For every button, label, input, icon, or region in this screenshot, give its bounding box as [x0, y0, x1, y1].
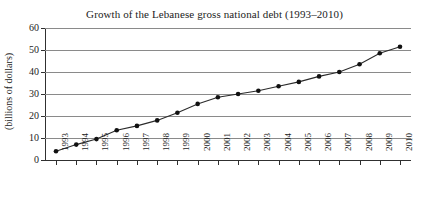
x-tick-mark: [157, 161, 158, 165]
x-tick-mark: [117, 161, 118, 165]
data-point: [276, 84, 281, 89]
data-point: [256, 88, 261, 93]
data-point: [135, 124, 140, 129]
x-tick-label: 2008: [364, 133, 374, 167]
x-tick-mark: [96, 161, 97, 165]
x-tick-label: 1993: [60, 133, 70, 167]
x-tick-label: 2007: [343, 133, 353, 167]
x-tick-mark: [258, 161, 259, 165]
y-axis-title-container: (billions of dollars): [0, 26, 16, 162]
x-tick-mark: [279, 161, 280, 165]
chart-title: Growth of the Lebanese gross national de…: [0, 8, 429, 20]
x-tick-label: 1995: [100, 133, 110, 167]
data-point: [74, 142, 79, 147]
x-tick-label: 2009: [384, 133, 394, 167]
x-tick-mark: [177, 161, 178, 165]
y-tick-label: 50: [15, 44, 39, 55]
x-tick-label: 1999: [181, 133, 191, 167]
x-tick-mark: [218, 161, 219, 165]
data-point: [297, 80, 302, 85]
x-tick-mark: [56, 161, 57, 165]
x-tick-mark: [238, 161, 239, 165]
x-tick-label: 2004: [283, 133, 293, 167]
x-tick-label: 2005: [303, 133, 313, 167]
x-tick-mark: [400, 161, 401, 165]
data-point: [175, 110, 180, 115]
y-tick-label: 30: [15, 88, 39, 99]
x-tick-label: 2001: [222, 133, 232, 167]
x-tick-label: 1994: [80, 133, 90, 167]
x-tick-mark: [198, 161, 199, 165]
y-axis-title: (billions of dollars): [3, 24, 14, 160]
x-tick-label: 1998: [161, 133, 171, 167]
data-point: [317, 74, 322, 79]
data-point: [114, 128, 119, 133]
x-tick-label: 1996: [121, 133, 131, 167]
x-tick-label: 1997: [141, 133, 151, 167]
y-tick-label: 40: [15, 66, 39, 77]
x-tick-mark: [360, 161, 361, 165]
data-point: [195, 102, 200, 107]
data-point: [155, 118, 160, 123]
data-point: [216, 95, 221, 100]
data-point: [94, 137, 99, 142]
y-tick-label: 20: [15, 110, 39, 121]
x-tick-label: 2010: [404, 133, 414, 167]
chart-figure: Growth of the Lebanese gross national de…: [0, 0, 429, 202]
x-tick-label: 2002: [242, 133, 252, 167]
x-tick-mark: [380, 161, 381, 165]
y-tick-mark: [41, 160, 45, 161]
y-tick-label: 10: [15, 132, 39, 143]
data-point: [377, 51, 382, 56]
x-tick-mark: [299, 161, 300, 165]
x-tick-label: 2000: [202, 133, 212, 167]
data-point: [236, 92, 241, 97]
data-point: [337, 70, 342, 75]
data-point: [54, 149, 59, 154]
data-point: [357, 62, 362, 67]
x-tick-mark: [137, 161, 138, 165]
x-tick-label: 2006: [323, 133, 333, 167]
y-tick-label: 0: [15, 154, 39, 165]
x-tick-mark: [76, 161, 77, 165]
data-point: [398, 44, 403, 49]
x-tick-label: 2003: [262, 133, 272, 167]
y-tick-label: 60: [15, 22, 39, 33]
x-tick-mark: [339, 161, 340, 165]
x-tick-mark: [319, 161, 320, 165]
